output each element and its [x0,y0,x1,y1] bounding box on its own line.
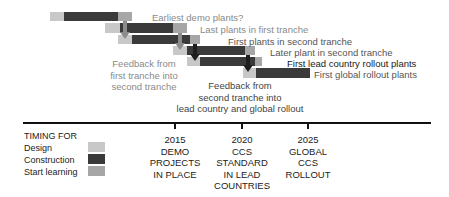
legend-swatch-construction [88,154,105,164]
row4-label: Later plant in second tranche [270,47,393,58]
row3-learning-bar [190,35,200,44]
row2-design-bar [105,23,120,33]
legend-swatch-design [88,142,105,152]
legend-label-start-learning: Start learning [24,167,78,177]
tick-2020 [241,123,243,129]
row1-learning-bar [118,12,132,21]
row1-design-bar [50,12,64,21]
milestone-2020: 2020 CCS STANDARD IN LEAD COUNTRIES [207,134,277,192]
feedback-note-second-tranche: Feedback from second tranche into lead c… [165,80,315,115]
tick-2015 [174,123,176,129]
legend-swatch-start-learning [88,166,105,176]
row5-learning-bar [255,57,262,66]
row6-label: First global rollout plants [314,69,417,80]
row1-label: Earliest demo plants? [152,12,243,23]
timeline-axis [23,122,431,124]
row3-label: First plants in second tranche [228,36,352,47]
row2-label: Last plants in first tranche [200,24,308,35]
legend-title: TIMING FOR [24,131,77,141]
row2-learning-bar [173,23,187,33]
row5-label: First lead country rollout plants [287,58,416,69]
tick-2025 [307,123,309,129]
legend-label-construction: Construction [24,155,75,165]
legend-label-design: Design [24,143,52,153]
milestone-2015: 2015 DEMO PROJECTS IN PLACE [140,134,210,180]
row4-learning-bar [245,46,255,55]
row6-construction-bar [256,68,310,78]
milestone-2025: 2025 GLOBAL CCS ROLLOUT [273,134,343,180]
row1-construction-bar [64,12,118,21]
